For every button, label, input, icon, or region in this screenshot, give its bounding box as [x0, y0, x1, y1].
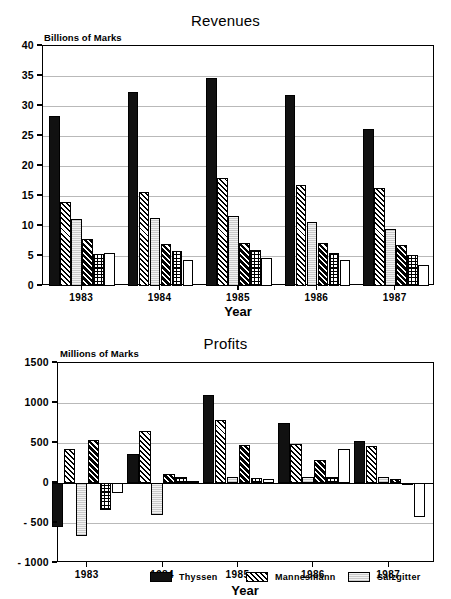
profits-plot-area [57, 362, 434, 562]
bar-series-5-1987 [407, 255, 418, 286]
gridline [43, 76, 433, 77]
y-tick-mark [37, 224, 42, 225]
y-tick-mark [37, 164, 42, 165]
gridline [43, 166, 433, 167]
legend-swatch-thyssen [150, 572, 172, 582]
y-tick-mark [37, 194, 42, 195]
gridline [58, 443, 433, 444]
bar-series-4-1983 [88, 440, 100, 483]
gridline [58, 403, 433, 404]
bar-series-6-1987 [414, 483, 426, 517]
y-axis-tick-label: 1500 [0, 356, 49, 368]
y-axis-tick-label: 25 [0, 129, 34, 141]
bar-series-6-1983 [112, 483, 124, 493]
bar-series-4-1987 [396, 245, 407, 286]
y-tick-mark [37, 104, 42, 105]
bar-series-5-1985 [251, 478, 263, 483]
x-tick-mark [237, 285, 238, 290]
x-axis-label-1986: 1986 [304, 292, 328, 303]
bar-mannesmann-1985 [217, 178, 228, 286]
y-tick-mark [37, 284, 42, 285]
bar-salzgitter-1986 [307, 222, 318, 286]
bar-salzgitter-1983 [76, 483, 88, 536]
y-tick-mark [52, 561, 57, 562]
bar-series-6-1984 [183, 260, 194, 286]
y-tick-mark [52, 401, 57, 402]
profits-chart: Profits Millions of Marks Year - 1000- 5… [0, 320, 451, 565]
bar-series-5-1983 [100, 483, 112, 510]
x-axis-label-1983: 1983 [69, 292, 93, 303]
gridline [58, 523, 433, 524]
bar-series-5-1986 [326, 477, 338, 483]
bar-salzgitter-1985 [227, 477, 239, 483]
x-tick-mark [86, 562, 87, 567]
y-tick-mark [37, 74, 42, 75]
bar-series-4-1985 [239, 445, 251, 483]
bar-mannesmann-1984 [139, 431, 151, 483]
x-axis-label-1987: 1987 [383, 292, 407, 303]
bar-series-4-1985 [239, 243, 250, 286]
y-axis-tick-label: 0 [0, 476, 49, 488]
legend-item-mannesmann[interactable]: Mannesmann [246, 572, 336, 582]
bar-thyssen-1984 [127, 454, 139, 483]
legend-item-salzgitter[interactable]: Salzgitter [348, 572, 421, 582]
bar-thyssen-1986 [278, 423, 290, 483]
bar-series-6-1985 [263, 479, 275, 483]
x-tick-mark [312, 562, 313, 567]
bar-thyssen-1986 [285, 95, 296, 286]
y-tick-mark [37, 134, 42, 135]
y-axis-tick-label: - 1000 [0, 556, 49, 568]
bar-salzgitter-1985 [228, 216, 239, 286]
y-tick-mark [52, 441, 57, 442]
bar-mannesmann-1986 [290, 444, 302, 483]
bar-series-4-1984 [161, 244, 172, 286]
bar-series-5-1985 [250, 250, 261, 286]
bar-thyssen-1983 [49, 116, 60, 286]
bar-series-5-1983 [93, 254, 104, 286]
legend-item-thyssen[interactable]: Thyssen [150, 572, 218, 582]
y-axis-tick-label: 20 [0, 159, 34, 171]
profits-y-axis-unit-label: Millions of Marks [60, 348, 139, 359]
y-axis-tick-label: 1000 [0, 396, 49, 408]
bar-mannesmann-1983 [64, 449, 76, 483]
y-tick-mark [37, 44, 42, 45]
bar-mannesmann-1983 [60, 202, 71, 286]
legend-swatch-mannesmann [246, 572, 268, 582]
x-tick-mark [159, 285, 160, 290]
gridline [43, 136, 433, 137]
x-tick-mark [81, 285, 82, 290]
revenues-plot-area [42, 45, 434, 285]
bar-salzgitter-1987 [378, 477, 390, 483]
bar-thyssen-1987 [363, 129, 374, 286]
y-axis-tick-label: 10 [0, 219, 34, 231]
revenues-y-axis-unit-label: Billions of Marks [44, 32, 122, 43]
bar-series-4-1983 [82, 239, 93, 286]
bar-salzgitter-1983 [71, 219, 82, 286]
bar-series-6-1984 [187, 481, 199, 483]
y-axis-tick-label: - 500 [0, 516, 49, 528]
y-axis-tick-label: 5 [0, 249, 34, 261]
y-tick-mark [52, 361, 57, 362]
legend: ThyssenMannesmannSalzgitter [0, 572, 451, 594]
bar-mannesmann-1986 [296, 185, 307, 286]
bar-thyssen-1985 [206, 78, 217, 286]
bar-thyssen-1985 [203, 395, 215, 483]
bar-salzgitter-1984 [151, 483, 163, 515]
y-tick-mark [37, 254, 42, 255]
y-tick-mark [52, 521, 57, 522]
legend-label-thyssen: Thyssen [179, 572, 218, 582]
bar-thyssen-1987 [354, 441, 366, 483]
bar-series-5-1984 [172, 251, 183, 286]
x-tick-mark [388, 562, 389, 567]
y-axis-tick-label: 15 [0, 189, 34, 201]
y-tick-mark [52, 481, 57, 482]
bar-series-6-1985 [261, 258, 272, 286]
x-tick-mark [316, 285, 317, 290]
legend-label-salzgitter: Salzgitter [377, 572, 421, 582]
bar-salzgitter-1987 [385, 229, 396, 286]
bar-series-5-1986 [329, 253, 340, 286]
bar-mannesmann-1987 [374, 188, 385, 286]
bar-mannesmann-1985 [215, 420, 227, 483]
x-tick-mark [394, 285, 395, 290]
revenues-x-axis-title: Year [224, 304, 251, 319]
